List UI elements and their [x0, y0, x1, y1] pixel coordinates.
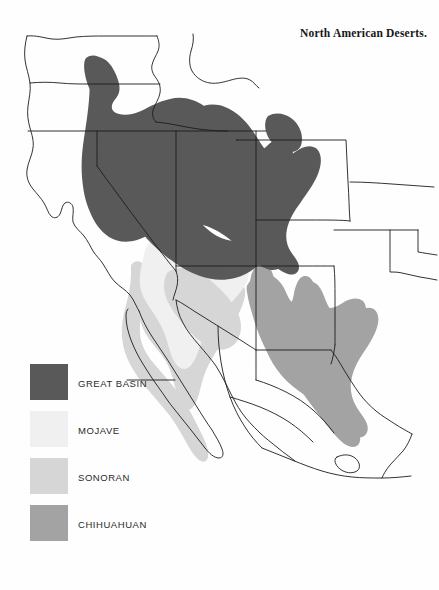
legend-item-mojave: MOJAVE [30, 411, 210, 458]
legend-label-great-basin: GREAT BASIN [78, 378, 147, 389]
map-page: North American Deserts. GREAT BASIN MOJA… [0, 0, 439, 590]
border-mexico-interior-south [230, 397, 313, 442]
legend-item-sonoran: SONORAN [30, 458, 210, 505]
legend-item-chihuahuan: CHIHUAHUAN [30, 505, 210, 552]
legend-swatch-sonoran [30, 458, 68, 494]
region-great-basin-oregon-arm [84, 56, 117, 103]
legend-swatch-great-basin [30, 364, 68, 400]
lagoon-detail [335, 455, 360, 473]
border-colorado-kansas-step [418, 230, 437, 255]
coastline-gulf-mexico [382, 434, 412, 478]
border-us-canada-west [27, 36, 157, 39]
map-legend: GREAT BASIN MOJAVE SONORAN CHIHUAHUAN [30, 364, 210, 552]
border-colorado-northeast [350, 182, 434, 187]
page-title: North American Deserts. [300, 27, 427, 39]
legend-label-sonoran: SONORAN [78, 472, 130, 483]
legend-label-chihuahuan: CHIHUAHUAN [78, 519, 147, 530]
legend-swatch-chihuahuan [30, 505, 68, 541]
legend-item-great-basin: GREAT BASIN [30, 364, 210, 411]
border-montana-north [190, 34, 259, 88]
border-texas-panhandle-east [390, 230, 437, 280]
legend-label-mojave: MOJAVE [78, 425, 120, 436]
legend-swatch-mojave [30, 411, 68, 447]
